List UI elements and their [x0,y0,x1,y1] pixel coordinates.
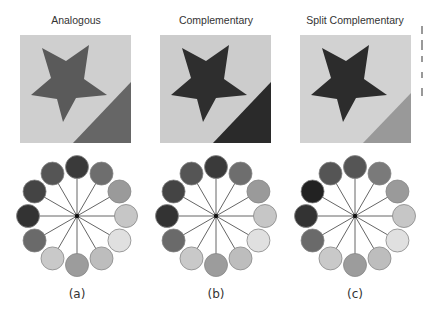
wheel-color-circle [180,247,203,270]
wheel-color-circle [368,247,391,270]
wheel-color-circle [229,162,252,185]
color-wheel [15,155,139,279]
wheel-color-circle [247,229,270,252]
wheel-color-circle [319,162,342,185]
wheel-color-circle [301,180,324,203]
star-swatch [20,35,131,143]
wheel-color-circle [344,254,367,277]
wheel-color-circle [180,162,203,185]
wheel-hub [75,214,79,218]
star-swatch [160,35,271,143]
wheel-color-circle [386,229,409,252]
panel-title: Analogous [6,14,146,26]
color-wheel [154,155,278,279]
wheel-color-circle [156,205,179,228]
wheel-color-circle [23,180,46,203]
wheel-color-circle [393,205,416,228]
wheel-color-circle [319,247,342,270]
wheel-color-circle [108,229,131,252]
wheel-color-circle [295,205,318,228]
wheel-hub [214,214,218,218]
color-wheel [293,155,417,279]
wheel-color-circle [23,229,46,252]
wheel-color-circle [90,162,113,185]
wheel-color-circle [162,229,185,252]
panel-title: Split Complementary [285,14,425,26]
panel-title: Complementary [146,14,286,26]
caption: (a) [57,287,97,301]
wheel-color-circle [344,156,367,179]
wheel-color-circle [229,247,252,270]
wheel-color-circle [66,156,89,179]
star-swatch [300,35,411,143]
wheel-color-circle [17,205,40,228]
wheel-color-circle [205,156,228,179]
wheel-color-circle [41,247,64,270]
caption: (c) [335,287,375,301]
wheel-color-circle [108,180,131,203]
wheel-color-circle [301,229,324,252]
wheel-color-circle [205,254,228,277]
wheel-color-circle [90,247,113,270]
wheel-color-circle [247,180,270,203]
wheel-color-circle [66,254,89,277]
wheel-color-circle [254,205,277,228]
cropped-text-fragment [419,22,427,112]
wheel-color-circle [41,162,64,185]
wheel-color-circle [162,180,185,203]
wheel-color-circle [386,180,409,203]
wheel-hub [353,214,357,218]
wheel-color-circle [115,205,138,228]
wheel-color-circle [368,162,391,185]
caption: (b) [196,287,236,301]
